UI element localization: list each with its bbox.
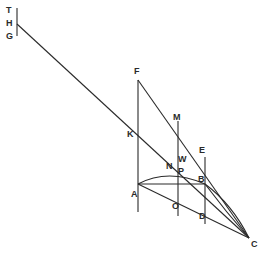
label-P: P (178, 166, 184, 176)
arc-AB (138, 176, 205, 184)
curve-BC-2 (205, 184, 249, 238)
label-C: C (251, 239, 258, 249)
label-W: W (178, 154, 187, 164)
label-M: M (173, 112, 181, 122)
label-N: N (166, 161, 173, 171)
label-H: H (6, 18, 13, 28)
label-D: D (199, 211, 206, 221)
label-G: G (6, 31, 13, 41)
label-O: O (172, 201, 179, 211)
label-A: A (131, 189, 138, 199)
label-F: F (134, 66, 140, 76)
geometric-diagram: T H G F K M E W N P B A O D C (0, 0, 269, 253)
label-E: E (199, 145, 205, 155)
label-K: K (127, 129, 134, 139)
line-FC (138, 80, 249, 238)
label-T: T (6, 5, 12, 15)
label-B: B (198, 174, 205, 184)
